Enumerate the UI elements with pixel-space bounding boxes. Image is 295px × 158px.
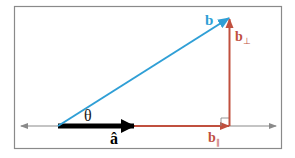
diagram-frame (15, 7, 282, 149)
projection-diagram: b b⊥ b∥ â θ (0, 0, 295, 158)
label-theta: θ (84, 107, 92, 124)
label-b: b (205, 12, 213, 28)
label-a-hat: â (110, 130, 118, 147)
